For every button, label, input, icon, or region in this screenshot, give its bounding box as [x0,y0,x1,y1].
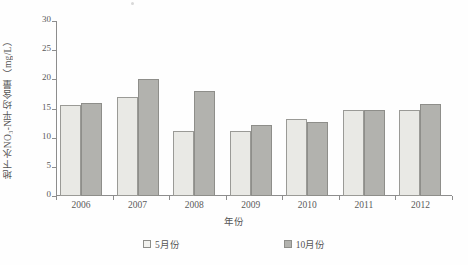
bar [286,119,307,196]
bar-group: 2006 [56,21,113,196]
legend-item: 5月份 [143,237,180,251]
bar-group: 2010 [282,21,339,196]
bar-group: 2009 [226,21,283,196]
bar [81,103,102,196]
x-tick-label: 2011 [334,200,394,210]
y-tick-label: 0 [47,189,52,199]
bar-group: 2011 [339,21,396,196]
bar [364,110,385,196]
bar [230,131,251,196]
x-axis-title: 年份 [0,214,468,228]
bar [307,122,328,196]
legend-item: 10月份 [284,237,326,251]
legend-label: 5月份 [155,237,180,251]
y-tick-label: 20 [42,72,51,82]
chart-figure: 地下水NO₃-N平均含量（mg/L） 051015202530 20062007… [0,0,468,265]
bar-group: 2008 [169,21,226,196]
bar [117,97,138,196]
y-axis-title-text: 地下水NO₃-N平均含量（mg/L） [1,36,15,179]
x-tick-label: 2009 [221,200,281,210]
y-axis-title: 地下水NO₃-N平均含量（mg/L） [0,18,16,198]
chart-legend: 5月份10月份 [0,237,468,251]
bar [343,110,364,196]
x-tick-label: 2008 [164,200,224,210]
y-tick-label: 30 [42,14,51,24]
y-tick-label: 25 [42,43,51,53]
bar-group: 2007 [113,21,170,196]
y-tick-label: 10 [42,131,51,141]
x-tick-label: 2007 [108,200,168,210]
bar [194,91,215,196]
bar [420,104,441,196]
bar [173,131,194,196]
plot-area: 051015202530 200620072008200920102011201… [56,21,452,196]
bar [138,79,159,196]
scan-speck [131,2,134,5]
legend-swatch-icon [143,240,151,248]
bar [251,125,272,196]
x-tick-label: 2006 [51,200,111,210]
bar [60,105,81,196]
legend-label: 10月份 [296,237,326,251]
y-tick-label: 5 [47,160,52,170]
x-tick-label: 2012 [390,200,450,210]
x-tick-label: 2010 [277,200,337,210]
bar [399,110,420,196]
legend-swatch-icon [284,240,292,248]
x-tick-mark [452,196,453,200]
y-tick-label: 15 [42,102,51,112]
bar-group: 2012 [395,21,452,196]
